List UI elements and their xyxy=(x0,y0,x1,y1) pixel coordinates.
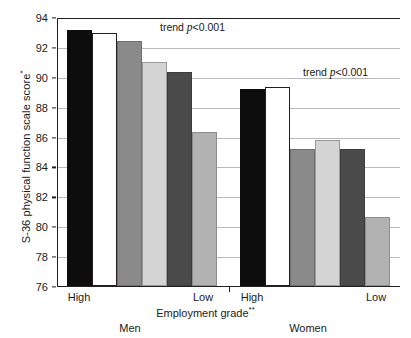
x-label-women-low: Low xyxy=(366,291,386,303)
y-axis-tick-mark xyxy=(52,107,56,108)
y-axis-tick-mark xyxy=(52,227,56,228)
x-axis-title-footnote: ** xyxy=(249,305,255,314)
trend-annotation-women: trend p<0.001 xyxy=(303,66,368,78)
bar-women-5 xyxy=(340,149,365,286)
group-name-women: Women xyxy=(289,322,327,334)
y-axis-tick-mark xyxy=(52,286,56,287)
bar-women-2 xyxy=(265,87,290,287)
y-axis-tick-mark xyxy=(52,47,56,48)
bar-men-1 xyxy=(67,30,92,286)
x-axis-title-text: Employment grade xyxy=(156,307,248,319)
trend-label: trend xyxy=(303,66,330,78)
x-label-men-low: Low xyxy=(193,291,213,303)
bar-women-4 xyxy=(315,140,340,286)
x-label-women-high: High xyxy=(241,291,264,303)
trend-annotation-men: trend p<0.001 xyxy=(160,21,225,33)
y-axis-tick-mark xyxy=(52,137,56,138)
trend-label: trend xyxy=(160,21,187,33)
y-axis-tick-label: 92 xyxy=(22,42,48,54)
gridline xyxy=(58,18,400,19)
y-axis-tick-label: 82 xyxy=(22,191,48,203)
bar-women-3 xyxy=(290,149,315,286)
y-axis-tick-label: 88 xyxy=(22,102,48,114)
bar-chart: S-36 physical function scale score* 9492… xyxy=(0,0,411,338)
x-label-men-high: High xyxy=(68,291,91,303)
y-axis-tick-label: 80 xyxy=(22,221,48,233)
bar-men-2 xyxy=(92,33,117,286)
y-axis-tick-mark xyxy=(52,17,56,18)
x-axis-title: Employment grade** xyxy=(0,305,411,319)
y-axis-tick-mark xyxy=(52,77,56,78)
y-axis-tick-label: 86 xyxy=(22,132,48,144)
y-axis-tick-mark xyxy=(52,257,56,258)
bar-men-3 xyxy=(117,41,142,286)
y-axis-tick-label: 84 xyxy=(22,161,48,173)
bar-men-5 xyxy=(167,72,192,286)
bar-women-6 xyxy=(365,217,390,286)
bar-men-4 xyxy=(142,62,167,286)
trend-p-value: <0.001 xyxy=(193,21,225,33)
y-axis-tick-label: 90 xyxy=(22,72,48,84)
bar-women-1 xyxy=(240,89,265,286)
plot-area: trend p<0.001trend p<0.001 xyxy=(57,18,400,287)
group-name-men: Men xyxy=(119,322,140,334)
y-axis-tick-mark xyxy=(52,197,56,198)
bar-men-6 xyxy=(192,132,217,286)
y-axis-tick-mark xyxy=(52,167,56,168)
y-axis-tick-label: 94 xyxy=(22,12,48,24)
trend-p-value: <0.001 xyxy=(336,66,368,78)
y-axis-tick-label: 78 xyxy=(22,251,48,263)
y-axis-title-text: S-36 physical function scale score xyxy=(20,74,32,244)
y-axis-tick-label: 76 xyxy=(22,281,48,293)
group-divider-tick xyxy=(229,287,230,292)
